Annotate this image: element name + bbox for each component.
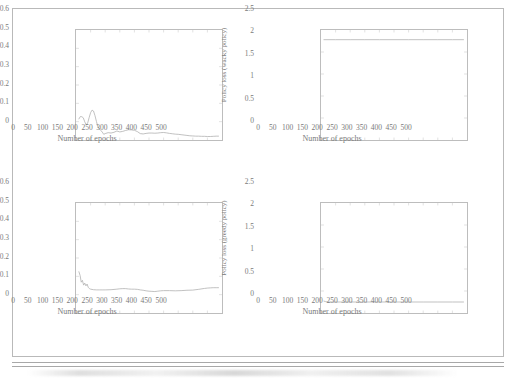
footer-caption-text	[28, 370, 458, 376]
y-tick-label: 0.2	[0, 253, 9, 261]
y-tick-label: 1.5	[245, 223, 254, 231]
x-tick-label: 100	[282, 123, 293, 133]
x-tick-label: 50	[269, 296, 277, 306]
x-tick-label: 150	[52, 123, 63, 133]
y-tick-label: 0.1	[0, 98, 9, 106]
y-tick-label: 1	[250, 72, 254, 80]
x-tick-label: 50	[24, 296, 32, 306]
x-tick-label: 100	[37, 296, 48, 306]
y-tick-labels: 00.511.522.5	[232, 182, 254, 294]
x-tick-label: 150	[297, 123, 308, 133]
x-tick-label: 150	[52, 296, 63, 306]
x-tick-label: 300	[96, 123, 107, 133]
x-tick-label: 200	[312, 123, 323, 133]
x-tick-label: 300	[96, 296, 107, 306]
x-tick-label: 0	[256, 123, 260, 133]
y-tick-label: 0.6	[0, 178, 9, 186]
y-tick-label: 0	[250, 117, 254, 125]
x-tick-label: 450	[141, 296, 152, 306]
y-tick-labels: 00.10.20.30.40.50.6	[0, 182, 9, 294]
y-tick-label: 2.5	[245, 178, 254, 186]
x-tick-label: 450	[386, 296, 397, 306]
y-tick-label: 0.4	[0, 42, 9, 50]
x-tick-label: 200	[67, 123, 78, 133]
x-axis-label: Number of epochs	[258, 307, 406, 317]
y-tick-label: 0.4	[0, 215, 9, 223]
x-axis-label: Number of epochs	[13, 134, 161, 144]
divider-line-top	[12, 362, 504, 363]
y-tick-label: 0.5	[0, 197, 9, 205]
x-tick-label: 100	[37, 123, 48, 133]
y-axis-label: Policy loss (greedy policy)	[217, 182, 231, 294]
x-tick-label: 0	[11, 123, 15, 133]
y-tick-label: 0.5	[0, 24, 9, 32]
x-tick-label: 400	[371, 123, 382, 133]
y-axis-label: Policy loss (wacky policy)	[217, 9, 231, 121]
y-tick-labels: 00.10.20.30.40.50.6	[0, 9, 9, 121]
y-tick-label: 0.3	[0, 234, 9, 242]
x-tick-label: 250	[81, 296, 92, 306]
x-tick-label: 50	[269, 123, 277, 133]
x-tick-label: 300	[341, 296, 352, 306]
x-axis-label: Number of epochs	[258, 134, 406, 144]
y-tick-label: 0	[5, 290, 9, 298]
y-tick-label: 0.5	[245, 95, 254, 103]
y-tick-label: 0	[5, 117, 9, 125]
y-tick-label: 0.6	[0, 5, 9, 13]
x-tick-label: 350	[111, 296, 122, 306]
x-tick-label: 500	[155, 296, 166, 306]
x-tick-labels: 050100150200250300350400450500	[258, 123, 406, 133]
x-tick-label: 350	[111, 123, 122, 133]
x-tick-label: 300	[341, 123, 352, 133]
y-tick-label: 1	[250, 245, 254, 253]
chart-policy-loss-greedy: Policy loss (greedy policy) 00.511.522.5…	[258, 182, 503, 355]
x-tick-label: 0	[11, 296, 15, 306]
x-tick-label: 200	[67, 296, 78, 306]
x-tick-label: 50	[24, 123, 32, 133]
y-tick-label: 0.2	[0, 80, 9, 88]
bottom-divider-rule	[12, 362, 504, 367]
x-tick-label: 350	[356, 123, 367, 133]
x-tick-label: 500	[155, 123, 166, 133]
chart-policy-loss-wacky: Policy loss (wacky policy) 00.511.522.5 …	[258, 9, 503, 182]
x-tick-label: 350	[356, 296, 367, 306]
divider-line-bottom	[12, 366, 504, 367]
x-tick-label: 0	[256, 296, 260, 306]
x-tick-label: 400	[126, 123, 137, 133]
x-tick-label: 150	[297, 296, 308, 306]
y-tick-label: 1.5	[245, 50, 254, 58]
y-tick-label: 0	[250, 290, 254, 298]
x-tick-label: 450	[386, 123, 397, 133]
y-tick-label: 2.5	[245, 5, 254, 13]
figure-chart-grid: RMS error in utility (wacky policy) 00.1…	[13, 9, 503, 356]
x-tick-label: 500	[400, 296, 411, 306]
x-axis-label: Number of epochs	[13, 307, 161, 317]
x-tick-labels: 050100150200250300350400450500	[13, 123, 161, 133]
y-tick-labels: 00.511.522.5	[232, 9, 254, 121]
x-tick-label: 400	[371, 296, 382, 306]
x-tick-label: 250	[326, 123, 337, 133]
y-tick-label: 0.5	[245, 268, 254, 276]
x-tick-label: 500	[400, 123, 411, 133]
x-tick-label: 100	[282, 296, 293, 306]
x-tick-label: 450	[141, 123, 152, 133]
x-tick-labels: 050100150200250300350400450500	[13, 296, 161, 306]
x-tick-label: 200	[312, 296, 323, 306]
y-tick-label: 2	[250, 200, 254, 208]
x-tick-label: 400	[126, 296, 137, 306]
y-tick-label: 2	[250, 27, 254, 35]
x-tick-label: 250	[326, 296, 337, 306]
x-tick-label: 250	[81, 123, 92, 133]
x-tick-labels: 050100150200250300350400450500	[258, 296, 406, 306]
y-tick-label: 0.3	[0, 61, 9, 69]
y-tick-label: 0.1	[0, 271, 9, 279]
